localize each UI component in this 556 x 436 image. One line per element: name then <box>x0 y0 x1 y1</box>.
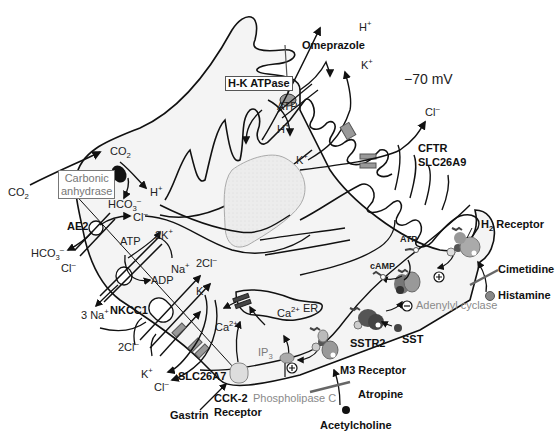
k-nkcc-in-label: K+ <box>196 284 208 297</box>
h-out-label: H+ <box>359 20 371 33</box>
two-k-label: 2K+ <box>155 228 173 241</box>
adenylyl-cyclase-label: Adenylyl cyclase <box>416 300 497 311</box>
sstr2-label: SSTR2 <box>350 338 385 349</box>
adp-label: ADP <box>151 275 174 286</box>
parietal-cell-diagram: −70 mV Omeprazole H+ K+ H-K ATPase ATP H… <box>0 0 556 436</box>
sst-dot-icon <box>394 324 402 332</box>
omeprazole-label: Omeprazole <box>302 40 365 51</box>
two-cl-in-label: 2Cl– <box>196 256 217 269</box>
er-label: ER <box>303 303 318 314</box>
k-channel <box>340 122 356 139</box>
atp-ac-label: ATP <box>400 235 417 244</box>
atropine-blocker-icon <box>310 382 350 392</box>
h-carbonic-label: H+ <box>150 185 162 198</box>
hk-atpase-label: H-K ATPase <box>225 76 293 91</box>
slc26a9-label: SLC26A9 <box>418 157 466 168</box>
m3-receptor-label: M3 Receptor <box>340 365 406 376</box>
atp-apical-label: ATP <box>277 101 298 112</box>
diagram-graphics <box>0 0 556 436</box>
cl-exit-label: Cl– <box>154 380 169 393</box>
atropine-label: Atropine <box>358 389 403 400</box>
gastrin-label: Gastrin <box>170 410 209 421</box>
nkcc1-label: NKCC1 <box>110 305 148 316</box>
three-na-label: 3 Na+ <box>81 308 109 321</box>
ip3-label: IP3 <box>258 347 273 361</box>
cftr-label: CFTR <box>418 143 447 154</box>
cl-ae2-in-label: Cl– <box>133 210 148 223</box>
sst-label: SST <box>402 334 423 345</box>
ca-er-label: Ca2+ <box>277 306 300 319</box>
atp-nak-label: ATP <box>120 236 141 247</box>
co2-in-label: CO2 <box>110 146 131 160</box>
phospholipase-c-label: Phospholipase C <box>253 393 336 404</box>
hco3-out-label: HCO3– <box>31 246 64 262</box>
cck2-label-line2: Receptor <box>214 407 262 418</box>
h2-receptor-label: H2 Receptor <box>481 219 544 233</box>
ca-cytosol-label: Ca2+ <box>215 320 238 333</box>
cl-out-label: Cl– <box>425 105 440 118</box>
ae2-label: AE2 <box>67 221 88 232</box>
k-out-label: K+ <box>361 58 373 71</box>
k-out-baso-label: K+ <box>141 367 153 380</box>
histamine-label: Histamine <box>498 290 551 301</box>
cck2-receptor <box>230 363 248 383</box>
two-cl-out-label: 2Cl– <box>118 340 139 353</box>
acetylcholine-label: Acetylcholine <box>320 420 392 431</box>
h-in-label: H+ <box>277 122 289 135</box>
cl-ae2-out-label: Cl– <box>61 261 76 274</box>
k-in-label: K+ <box>296 153 308 166</box>
membrane-potential: −70 mV <box>404 72 453 86</box>
na-label: Na+ <box>171 262 190 275</box>
cimetidine-label: Cimetidine <box>498 264 554 275</box>
phospholipase-c <box>280 353 294 363</box>
camp-label: cAMP <box>370 262 395 271</box>
slc26a7-label: SLC26A7 <box>178 371 226 382</box>
carbonic-anhydrase-label: Carbonic anhydrase <box>58 170 115 199</box>
co2-out-label: CO2 <box>8 187 29 201</box>
cck2-label-line1: CCK-2 <box>214 393 248 404</box>
acetylcholine-dot-icon <box>342 406 350 414</box>
